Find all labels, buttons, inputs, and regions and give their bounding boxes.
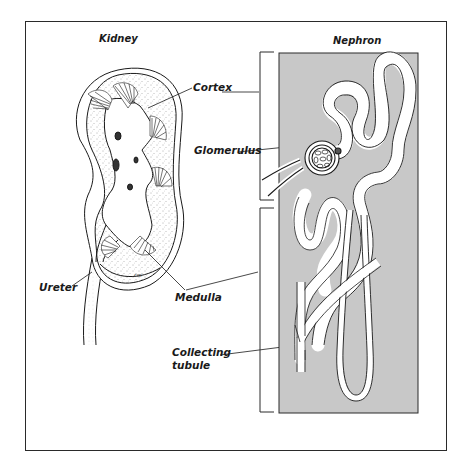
- medulla-label: Medulla: [175, 292, 222, 304]
- kidney-drawing: cm: [76, 68, 183, 345]
- kidney-title: Kidney: [99, 33, 138, 44]
- nephron-title: Nephron: [333, 35, 381, 46]
- ureter-label: Ureter: [39, 282, 77, 294]
- collecting-tubule-label-line1: Collecting: [172, 347, 231, 359]
- glomerulus-label: Glomerulus: [194, 145, 261, 157]
- collecting-tubule-label-line2: tubule: [172, 360, 210, 372]
- region-brackets: [260, 52, 274, 412]
- cortex-label: Cortex: [193, 82, 232, 94]
- svg-text:cm: cm: [134, 272, 142, 278]
